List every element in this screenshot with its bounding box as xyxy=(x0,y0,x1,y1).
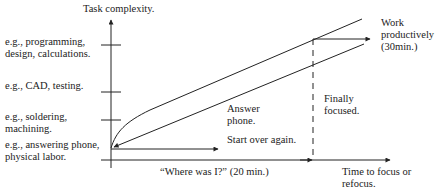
diagram-canvas xyxy=(0,0,437,192)
level-phone-label: e.g., answering phone, physical labor. xyxy=(5,139,99,163)
level-soldering-label: e.g., soldering, machining. xyxy=(5,111,67,135)
start-over-label: Start over again. xyxy=(227,134,296,146)
work-productively-label: Work productively (30min.) xyxy=(381,17,434,53)
level-cad-label: e.g., CAD, testing. xyxy=(5,80,83,92)
y-axis-title: Task complexity. xyxy=(83,3,155,15)
level-programming-label: e.g., programming, design, calculations. xyxy=(5,36,90,60)
where-was-i-label: “Where was I?” (20 min.) xyxy=(160,166,269,178)
focus-curve xyxy=(111,19,362,148)
finally-focused-label: Finally focused. xyxy=(324,93,359,117)
x-axis-title: Time to focus or refocus. xyxy=(342,166,411,190)
answer-phone-label: Answer phone. xyxy=(227,103,260,127)
